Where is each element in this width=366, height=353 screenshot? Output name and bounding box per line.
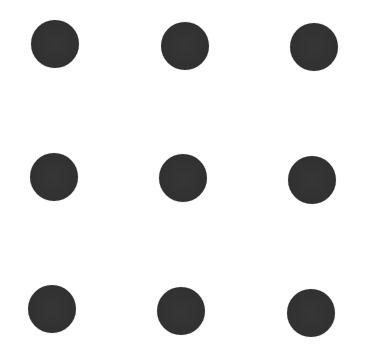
dot-grid-canvas — [0, 0, 366, 353]
dot-r1-c1 — [31, 20, 79, 68]
dot-r2-c1 — [30, 153, 78, 201]
dot-r2-c2 — [159, 154, 207, 202]
dot-r3-c3 — [287, 289, 335, 337]
dot-r3-c2 — [157, 287, 205, 335]
dot-r1-c2 — [161, 22, 209, 70]
dot-r2-c3 — [288, 156, 336, 204]
dot-r1-c3 — [290, 23, 338, 71]
dot-r3-c1 — [28, 285, 76, 333]
